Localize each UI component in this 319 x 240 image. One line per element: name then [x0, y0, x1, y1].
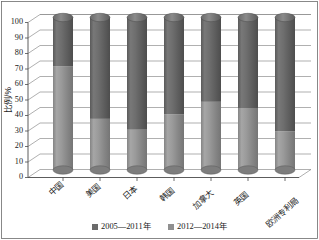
x-tick-label-6: 欧洲专利局 [263, 196, 299, 230]
stacked-bar-chart: 100 90 80 70 60 50 40 30 20 10 0 比例/% [0, 0, 319, 240]
legend-label-series-1: 2005—2011年 [101, 221, 151, 231]
chart-legend: 2005—2011年 2012—2014年 [92, 221, 227, 231]
bar-top-cap [238, 13, 258, 21]
bar-segment-series-2 [201, 102, 221, 170]
y-tick-label: 100 [11, 17, 23, 26]
y-tick-label: 60 [15, 79, 23, 88]
x-tick-label-5: 英国 [231, 190, 250, 208]
bar-segment-series-1 [201, 18, 221, 102]
bar-segment-series-2 [90, 119, 110, 170]
x-tick-label-0: 中国 [46, 180, 65, 198]
bar-bottom-cap [127, 166, 147, 174]
y-tick-label: 30 [15, 126, 23, 135]
bar-top-cap [164, 13, 184, 21]
bar-group-2 [127, 13, 147, 174]
bar-segment-series-1 [90, 18, 110, 119]
bar-top-cap [201, 13, 221, 21]
bar-segment-series-2 [238, 108, 258, 170]
bar-segment-series-1 [164, 18, 184, 115]
bar-bottom-cap [53, 166, 73, 174]
bar-top-cap [127, 13, 147, 21]
x-tick-label-2: 日本 [120, 183, 139, 202]
bar-segment-series-1 [127, 18, 147, 130]
bar-group-1 [90, 13, 110, 174]
bar-group-5 [238, 13, 258, 174]
x-tick-label-3: 韩国 [157, 186, 176, 204]
legend-swatch-series-1 [92, 224, 98, 230]
bar-top-cap [275, 13, 295, 21]
y-tick-label: 90 [15, 33, 23, 42]
bar-segment-series-1 [275, 18, 295, 132]
bar-group-6 [275, 13, 295, 174]
y-tick-label: 10 [15, 157, 23, 166]
bar-group-3 [164, 13, 184, 174]
bar-bottom-cap [90, 166, 110, 174]
bar-top-cap [53, 13, 73, 21]
bar-group-0 [53, 13, 73, 174]
y-tick-label: 50 [15, 95, 23, 104]
bar-top-cap [90, 13, 110, 21]
x-tick-label-4: 加拿大 [190, 187, 215, 211]
legend-swatch-series-2 [168, 224, 174, 230]
bar-group-4 [201, 13, 221, 174]
y-axis-title: 比例/% [3, 87, 13, 113]
y-tick-label: 0 [19, 172, 23, 181]
y-tick-label: 70 [15, 64, 23, 73]
bar-segment-series-2 [127, 130, 147, 170]
chart-frame [2, 2, 318, 239]
bar-bottom-cap [201, 166, 221, 174]
bar-bottom-cap [238, 166, 258, 174]
y-tick-label: 80 [15, 48, 23, 57]
x-category-labels: 中国 美国 日本 韩国 加拿大 英国 欧洲专利局 [46, 180, 300, 230]
x-tick-label-1: 美国 [83, 182, 102, 200]
bar-segment-series-2 [275, 131, 295, 170]
bar-bottom-cap [164, 166, 184, 174]
bar-segment-series-2 [53, 66, 73, 170]
chart-container: 100 90 80 70 60 50 40 30 20 10 0 比例/% [0, 0, 319, 240]
bar-segment-series-1 [53, 18, 73, 67]
bar-bottom-cap [275, 166, 295, 174]
bar-segment-series-1 [238, 18, 258, 109]
y-tick-label: 40 [15, 110, 23, 119]
legend-label-series-2: 2012—2014年 [177, 221, 227, 231]
bar-segment-series-2 [164, 114, 184, 170]
y-tick-label: 20 [15, 141, 23, 150]
